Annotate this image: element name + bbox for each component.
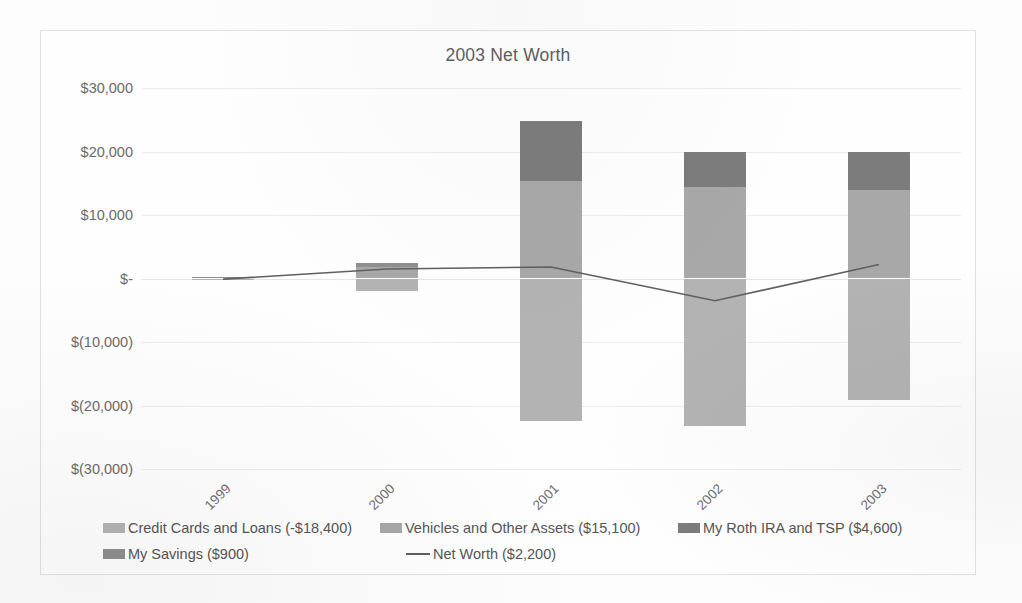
x-axis-tick-label: 2002 [694, 481, 726, 513]
legend-item[interactable]: My Savings ($900) [103, 546, 249, 562]
legend-item[interactable]: Net Worth ($2,200) [406, 546, 556, 562]
chart-container: 2003 Net Worth $30,000$20,000$10,000$-$(… [40, 30, 976, 575]
legend-row: My Savings ($900)Net Worth ($2,200) [103, 546, 953, 572]
plot-area [141, 88, 961, 469]
legend-swatch-icon [103, 549, 125, 559]
y-axis-tick-label: $- [120, 271, 133, 287]
net-worth-line-layer [141, 88, 961, 469]
y-axis-tick-label: $20,000 [81, 144, 133, 160]
x-axis-tick-label: 2003 [858, 481, 890, 513]
legend-line-icon [406, 553, 430, 555]
y-axis-tick-label: $(30,000) [71, 461, 133, 477]
y-axis: $30,000$20,000$10,000$-$(10,000)$(20,000… [41, 88, 133, 469]
y-axis-tick-label: $(10,000) [71, 334, 133, 350]
legend-row: Credit Cards and Loans (-$18,400)Vehicle… [103, 520, 953, 546]
chart-title: 2003 Net Worth [41, 45, 975, 66]
legend-item[interactable]: Vehicles and Other Assets ($15,100) [380, 520, 640, 536]
legend-item[interactable]: My Roth IRA and TSP ($4,600) [678, 520, 902, 536]
x-axis-tick-label: 1999 [202, 481, 234, 513]
legend-item-label: Credit Cards and Loans (-$18,400) [128, 520, 352, 536]
y-axis-tick-label: $30,000 [81, 80, 133, 96]
legend-item-label: Net Worth ($2,200) [433, 546, 556, 562]
legend-item-label: Vehicles and Other Assets ($15,100) [405, 520, 640, 536]
legend-swatch-icon [380, 523, 402, 533]
legend-item-label: My Roth IRA and TSP ($4,600) [703, 520, 902, 536]
x-axis-tick-label: 2000 [366, 481, 398, 513]
scanned-page-background: 2003 Net Worth $30,000$20,000$10,000$-$(… [0, 0, 1022, 603]
legend-item-label: My Savings ($900) [128, 546, 249, 562]
legend-swatch-icon [103, 523, 125, 533]
x-axis-tick-label: 2001 [530, 481, 562, 513]
net-worth-line [223, 265, 879, 301]
legend-item[interactable]: Credit Cards and Loans (-$18,400) [103, 520, 352, 536]
chart-legend: Credit Cards and Loans (-$18,400)Vehicle… [103, 520, 953, 572]
y-axis-tick-label: $(20,000) [71, 398, 133, 414]
legend-swatch-icon [678, 523, 700, 533]
y-axis-tick-label: $10,000 [81, 207, 133, 223]
